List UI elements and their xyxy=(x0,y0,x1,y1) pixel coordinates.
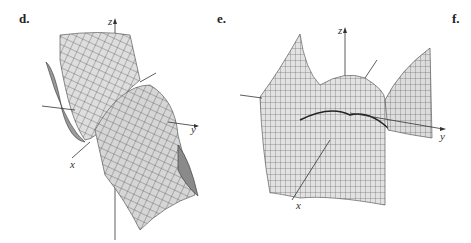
z-axis-label: z xyxy=(107,15,113,27)
y-axis-label: y xyxy=(439,130,445,142)
x-axis xyxy=(72,142,90,158)
x-axis-label: x xyxy=(69,158,75,170)
panel-d-plot: z y x xyxy=(42,15,199,240)
y-axis-label: y xyxy=(190,123,196,135)
surface-plots: z y x z y x xyxy=(0,0,471,243)
panel-e-plot: z y x xyxy=(240,24,446,211)
x-axis-label: x xyxy=(295,199,301,211)
z-axis-label: z xyxy=(337,24,343,36)
